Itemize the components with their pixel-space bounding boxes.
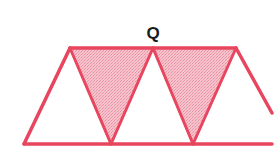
diagram-canvas: Q xyxy=(0,0,274,168)
trapezoid-right-side xyxy=(236,48,272,113)
vertex-label-q: Q xyxy=(146,24,159,43)
trapezoid-left-side xyxy=(24,48,70,144)
shaded-triangle-right xyxy=(153,49,234,143)
shaded-triangle-left xyxy=(72,49,153,143)
